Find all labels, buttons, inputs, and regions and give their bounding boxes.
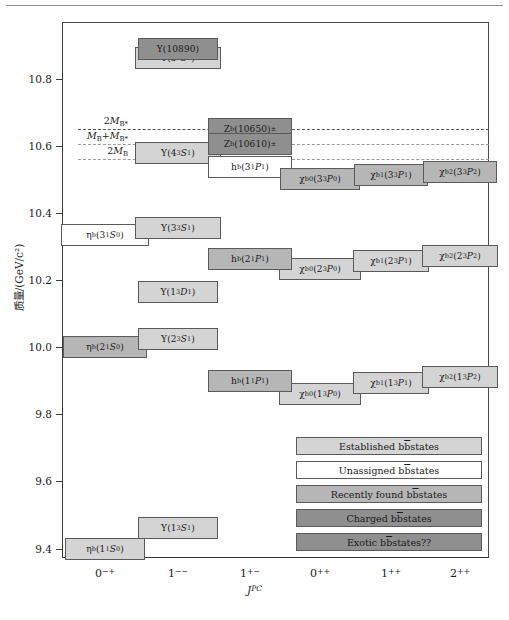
state-box-ups1d: Υ(13D1) [138, 281, 218, 303]
y-tick-label: 9.6 [0, 476, 52, 486]
legend-item-chg: Charged bb states [296, 509, 482, 527]
y-tick-mark [56, 481, 63, 482]
x-tick-label-0-+: 0−+ [75, 566, 135, 580]
legend-item-exo: Exotic bb states?? [296, 533, 482, 551]
state-box-ups10890: Υ(10890) [138, 38, 218, 60]
state-box-hb2p: hb(21P1) [208, 248, 292, 270]
page-top-rule [6, 5, 503, 6]
state-box-ups2s: Υ(23S1) [138, 328, 218, 350]
y-tick-mark [56, 79, 63, 80]
legend-item-rec: Recently found bb states [296, 485, 482, 503]
y-tick-label: 9.8 [0, 409, 52, 419]
y-tick-label: 10.2 [0, 275, 52, 285]
x-tick-label-1++: 1++ [361, 566, 421, 580]
y-tick-label: 10.0 [0, 342, 52, 352]
state-box-ups1s: Υ(13S1) [138, 517, 218, 539]
x-tick-label-0++: 0++ [290, 566, 350, 580]
state-box-chib12p: χb1(23P1) [353, 250, 429, 272]
legend-item-est: Established bb states [296, 437, 482, 455]
x-tick-label-1--: 1−− [148, 566, 208, 580]
y-tick-label: 10.8 [0, 74, 52, 84]
y-tick-mark [56, 549, 63, 550]
state-box-etab1s: ηb(11S0) [65, 538, 145, 560]
threshold-label-t2: MB+MB* [0, 130, 128, 143]
y-axis-label: 质量/(GeV/c²) [11, 218, 26, 338]
y-axis-line [62, 22, 63, 558]
y-tick-label: 10.4 [0, 208, 52, 218]
legend: Established bb statesUnassigned bb state… [296, 437, 482, 551]
legend-item-una: Unassigned bb states [296, 461, 482, 479]
state-box-chib22p: χb2(23P2) [422, 245, 498, 267]
x-tick-label-2++: 2++ [430, 566, 490, 580]
threshold-label-t3: 2MB [0, 145, 128, 158]
y-tick-mark [56, 280, 63, 281]
y-tick-mark [56, 213, 63, 214]
state-box-hb1p: hb(11P1) [208, 370, 292, 392]
state-box-chib03p: χb0(33P0) [280, 168, 360, 190]
threshold-label-t1: 2MB* [0, 115, 128, 128]
state-box-chib21p: χb2(13P2) [422, 366, 498, 388]
x-axis-label: JPC [0, 584, 509, 596]
state-box-chib13p: χb1(33P1) [354, 164, 428, 186]
state-box-zb10610: Zb(10610)± [208, 133, 292, 155]
y-tick-mark [56, 414, 63, 415]
y-tick-mark [56, 347, 63, 348]
state-box-chib23p: χb2(33P2) [423, 161, 497, 183]
state-box-ups3s: Υ(33S1) [135, 217, 221, 239]
state-box-etab2s: ηb(21S0) [63, 336, 147, 358]
x-tick-label-1+-: 1+− [220, 566, 280, 580]
y-tick-label: 9.4 [0, 544, 52, 554]
state-box-chib11p: χb1(13P1) [353, 372, 429, 394]
